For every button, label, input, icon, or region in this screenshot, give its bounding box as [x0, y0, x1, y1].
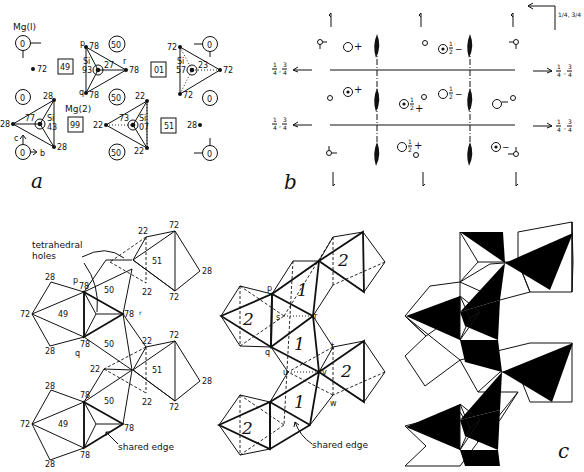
svg-text:78: 78	[89, 91, 99, 100]
svg-text:2: 2	[410, 104, 414, 111]
svg-text:22: 22	[142, 398, 152, 407]
mg2-label: Mg(2)	[65, 104, 91, 114]
panel-label-c: c	[558, 439, 569, 463]
svg-text:43: 43	[47, 123, 57, 132]
svg-text:49: 49	[60, 63, 70, 72]
arrow-right-icon	[533, 68, 552, 128]
svg-text:78: 78	[80, 391, 90, 400]
svg-text:3: 3	[568, 63, 572, 70]
svg-text:s: s	[276, 313, 280, 322]
svg-text:22: 22	[134, 147, 144, 156]
svg-text:51: 51	[152, 257, 162, 266]
svg-text:Si: Si	[47, 114, 54, 123]
svg-text:1: 1	[408, 138, 412, 145]
svg-text:2: 2	[337, 250, 349, 270]
svg-text:72: 72	[20, 420, 30, 429]
svg-text:28: 28	[45, 273, 55, 282]
mg-square: 01	[151, 62, 166, 77]
svg-text:50: 50	[104, 397, 114, 406]
panel-label-b: b	[284, 170, 297, 194]
fraction-label: 1 4 , 3 4	[272, 61, 287, 76]
svg-text:1: 1	[449, 40, 453, 47]
crystal-structure-figure: Mg(l) 0 0 0 c b 0	[0, 0, 584, 472]
svg-text:50: 50	[111, 94, 121, 103]
oxygen-circle: 0	[16, 90, 31, 105]
screw-axis-symbol	[329, 13, 513, 27]
svg-text:49: 49	[58, 310, 68, 319]
svg-text:2: 2	[408, 146, 412, 153]
svg-text:1: 1	[297, 280, 308, 300]
svg-text:22: 22	[135, 92, 145, 101]
svg-text:28: 28	[202, 267, 212, 276]
svg-text:4: 4	[568, 71, 572, 78]
svg-text:0: 0	[207, 150, 212, 159]
svg-text:49: 49	[58, 420, 68, 429]
svg-text:01: 01	[154, 66, 164, 75]
si-tetrahedron: p 78 Si 93 27 r 78 q 78	[79, 39, 139, 100]
svg-text:07: 07	[139, 123, 149, 132]
svg-text:78: 78	[79, 282, 89, 291]
svg-text:78: 78	[129, 66, 139, 75]
svg-text:57: 57	[176, 66, 186, 75]
svg-text:1: 1	[410, 96, 414, 103]
svg-text:78: 78	[80, 451, 90, 460]
svg-text:0: 0	[207, 95, 212, 104]
svg-text:4: 4	[283, 124, 287, 131]
fraction-label: 1 4 , 3 4	[556, 63, 572, 78]
svg-text:+: +	[415, 103, 423, 114]
svg-text:4: 4	[283, 69, 287, 76]
panel-label-a: a	[31, 169, 43, 193]
svg-text:28: 28	[187, 121, 197, 130]
svg-text:22: 22	[142, 288, 152, 297]
svg-text:72: 72	[169, 331, 179, 340]
svg-text:72: 72	[37, 65, 47, 74]
svg-text:72: 72	[169, 403, 179, 412]
polyhedron-labels: 2 2 2 2 1 1 1	[241, 250, 352, 438]
fraction-label: 1 4 , 3 4	[272, 116, 287, 131]
svg-text:+: +	[414, 140, 422, 151]
svg-text:1: 1	[294, 392, 305, 412]
shared-edge-label: shared edge	[312, 440, 368, 450]
svg-text:28: 28	[43, 92, 53, 101]
panel-polyhedra-middle: 2 2 2 2 1 1 1 p s r q t u v w shared edg…	[219, 232, 385, 455]
atom-symbol: 1 2 + −	[327, 138, 519, 158]
svg-text:q: q	[75, 349, 80, 358]
svg-text:w: w	[330, 399, 337, 408]
svg-text:3: 3	[283, 61, 287, 68]
oxygen-circle: 0	[194, 138, 218, 161]
svg-text:1: 1	[273, 116, 277, 123]
svg-text:u: u	[283, 368, 288, 377]
svg-text:−: −	[455, 44, 463, 54]
oxygen-circle-50: 50	[109, 36, 125, 52]
svg-text:2: 2	[241, 418, 253, 438]
svg-text:0: 0	[20, 40, 25, 49]
svg-text:78: 78	[80, 340, 90, 349]
svg-text:99: 99	[70, 121, 80, 130]
svg-text:3: 3	[568, 118, 572, 125]
svg-text:72: 72	[223, 66, 233, 75]
oxygen-circle: 0	[194, 37, 218, 58]
svg-text:50: 50	[104, 286, 114, 295]
svg-text:q: q	[265, 348, 270, 357]
oxygen-circle: 0	[203, 91, 218, 106]
oxygen-circle: 0	[16, 36, 42, 59]
svg-text:v: v	[322, 368, 327, 377]
svg-text:51: 51	[152, 366, 162, 375]
svg-text:q: q	[79, 88, 84, 97]
panel-c-filled-polyhedra: c	[405, 222, 573, 466]
svg-text:2: 2	[449, 93, 453, 100]
svg-text:28: 28	[45, 460, 55, 469]
svg-text:78: 78	[124, 310, 134, 319]
mg-square: 51	[161, 118, 176, 133]
svg-text:50: 50	[111, 149, 121, 158]
svg-text:r: r	[139, 309, 142, 316]
tetrahedral-holes-label: tetrahedral	[32, 240, 82, 250]
axis-c-label: c	[14, 134, 18, 143]
svg-text:72: 72	[169, 293, 179, 302]
svg-text:t: t	[331, 342, 334, 351]
svg-text:78: 78	[89, 42, 99, 51]
panel-polyhedra-left: tetrahedral holes	[20, 221, 212, 469]
svg-text:2: 2	[242, 309, 254, 329]
svg-text:72: 72	[20, 310, 30, 319]
svg-text:−: −	[502, 142, 510, 152]
